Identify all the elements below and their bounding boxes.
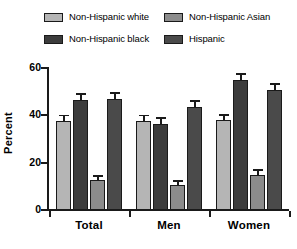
bar-women-hispanic	[267, 90, 282, 210]
bar-men-non-hispanic-black	[153, 124, 168, 210]
y-axis-title: Percent	[2, 103, 14, 163]
bar-women-non-hispanic-white	[216, 120, 231, 210]
error-bar	[80, 95, 82, 100]
chart-legend: Non-Hispanic white Non-Hispanic Asian No…	[44, 6, 294, 50]
error-bar-cap	[110, 92, 120, 94]
error-bar-cap	[190, 100, 200, 102]
y-tick-20	[41, 162, 49, 164]
bar-total-non-hispanic-white	[56, 121, 71, 210]
bar-women-non-hispanic-asian	[250, 175, 265, 210]
bar-men-non-hispanic-white	[136, 121, 151, 210]
error-bar	[274, 85, 276, 90]
legend-item-non-hispanic-asian: Non-Hispanic Asian	[164, 12, 294, 22]
bar-total-non-hispanic-asian	[90, 180, 105, 210]
error-bar	[257, 171, 259, 175]
error-bar	[143, 116, 145, 120]
y-tick-label-20: 20	[19, 156, 41, 168]
y-tick-label-0: 0	[19, 203, 41, 215]
error-bar	[194, 102, 196, 108]
error-bar	[63, 116, 65, 120]
error-bar	[114, 94, 116, 99]
x-tick-divider	[289, 211, 291, 217]
error-bar-cap	[253, 169, 263, 171]
x-tick-divider	[209, 211, 211, 217]
y-tick-40	[41, 114, 49, 116]
legend-item-non-hispanic-white: Non-Hispanic white	[44, 12, 164, 22]
legend-swatch-non-hispanic-black	[44, 35, 63, 44]
y-tick-label-60: 60	[19, 61, 41, 73]
legend-label-non-hispanic-asian: Non-Hispanic Asian	[189, 12, 270, 22]
error-bar	[97, 177, 99, 180]
bar-group-men	[129, 68, 209, 210]
bar-total-non-hispanic-black	[73, 100, 88, 210]
bar-total-hispanic	[107, 99, 122, 210]
y-tick-0	[41, 209, 49, 211]
legend-item-hispanic: Hispanic	[164, 34, 294, 44]
x-axis-label-total: Total	[49, 219, 129, 231]
error-bar	[240, 75, 242, 81]
error-bar-cap	[76, 93, 86, 95]
legend-label-hispanic: Hispanic	[189, 34, 225, 44]
x-tick-divider	[129, 211, 131, 217]
y-tick-60	[41, 67, 49, 69]
error-bar	[160, 119, 162, 124]
bar-group-women	[209, 68, 289, 210]
bar-men-non-hispanic-asian	[170, 185, 185, 210]
x-tick-origin	[49, 211, 51, 217]
bar-group-total	[49, 68, 129, 210]
error-bar-cap	[236, 73, 246, 75]
bar-women-non-hispanic-black	[233, 80, 248, 210]
legend-label-non-hispanic-black: Non-Hispanic black	[69, 34, 149, 44]
error-bar	[177, 182, 179, 186]
legend-swatch-non-hispanic-asian	[164, 13, 183, 22]
error-bar-cap	[270, 83, 280, 85]
bar-men-hispanic	[187, 107, 202, 210]
error-bar-cap	[219, 114, 229, 116]
legend-item-non-hispanic-black: Non-Hispanic black	[44, 34, 164, 44]
error-bar-cap	[59, 115, 69, 117]
error-bar-cap	[173, 180, 183, 182]
x-axis-label-women: Women	[209, 219, 289, 231]
error-bar-cap	[156, 117, 166, 119]
bar-series-container	[49, 68, 289, 210]
x-axis-label-men: Men	[129, 219, 209, 231]
legend-label-non-hispanic-white: Non-Hispanic white	[69, 12, 149, 22]
legend-swatch-hispanic	[164, 35, 183, 44]
error-bar-cap	[93, 175, 103, 177]
y-tick-label-40: 40	[19, 108, 41, 120]
legend-swatch-non-hispanic-white	[44, 13, 63, 22]
error-bar	[223, 116, 225, 121]
error-bar-cap	[139, 115, 149, 117]
chart-plot-area: Percent 0204060 TotalMenWomen	[0, 55, 297, 249]
